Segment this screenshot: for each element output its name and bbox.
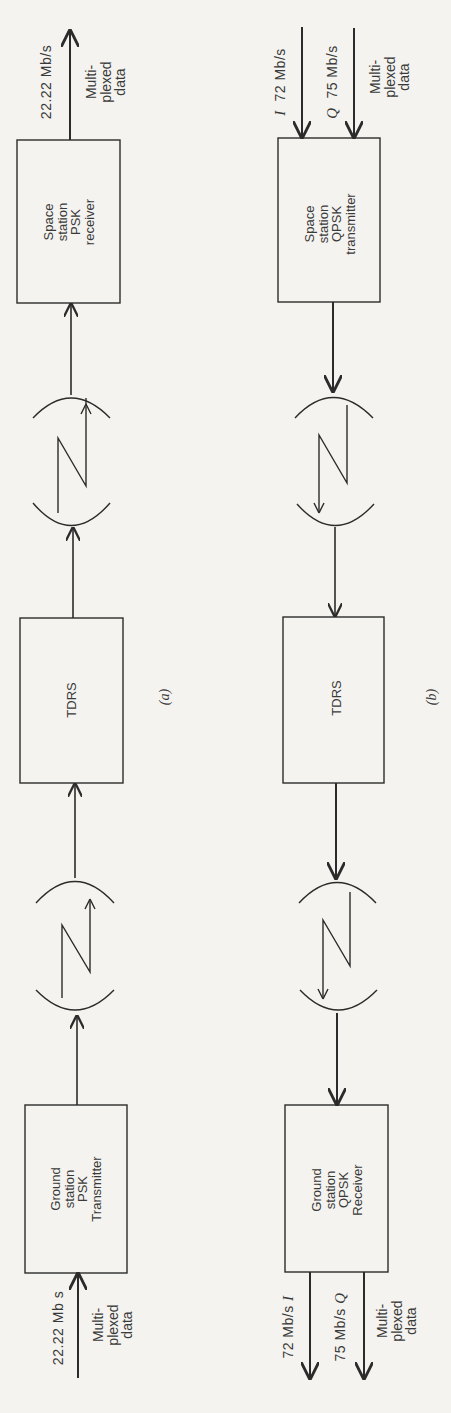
text-line: Multi- <box>375 1300 390 1341</box>
text-line: station <box>323 1164 337 1215</box>
text-line: plexed <box>390 1300 405 1341</box>
text-line: Space <box>303 193 317 254</box>
figure-canvas: 22.22 Mb/s Multi- plexed data Space stat… <box>0 0 451 1413</box>
b-input-q-label: Q 75 Mb/s <box>325 45 341 118</box>
a-space-rx-label: Space station PSK receiver <box>42 199 97 245</box>
a-caption: (a) <box>158 689 173 705</box>
text-line: Multi- <box>84 61 99 102</box>
b-tdrs-label: TDRS <box>330 680 344 715</box>
text-line: station <box>316 193 330 254</box>
a-input-rate: 22.22 Mb s <box>51 1291 66 1365</box>
channel-q-symbol: Q <box>324 107 340 118</box>
b-output-q-label: 75 Mb/s Q <box>333 1292 349 1361</box>
text-line: data <box>120 1304 135 1345</box>
text-line: PSK <box>69 199 83 245</box>
text-line: Ground <box>310 1164 324 1215</box>
text-line: data <box>397 56 412 97</box>
b-ground-rx-label: Ground station QPSK Receiver <box>310 1164 365 1215</box>
text-line: plexed <box>99 61 114 102</box>
a-output-mux-label: Multi- plexed data <box>84 61 128 102</box>
text-line: Space <box>42 199 56 245</box>
b-output-i-label: 72 Mb/s I <box>281 1295 297 1358</box>
text-line: plexed <box>383 56 398 97</box>
text-line: Receiver <box>351 1164 365 1215</box>
b-space-tx-label: Space station QPSK transmitter <box>303 193 358 254</box>
text-line: PSK <box>76 1156 90 1221</box>
channel-i-symbol: I <box>280 1295 296 1301</box>
b-input-mux-label: Multi- plexed data <box>368 56 412 97</box>
rate-text: 75 Mb/s <box>324 45 340 98</box>
text-line: Multi- <box>91 1304 106 1345</box>
channel-i-symbol: I <box>272 110 288 116</box>
text-line: Transmitter <box>90 1156 104 1221</box>
a-tdrs-label: TDRS <box>65 682 79 717</box>
text-line: QPSK <box>337 1164 351 1215</box>
text-line: transmitter <box>344 193 358 254</box>
channel-q-symbol: Q <box>332 1292 348 1303</box>
text-line: data <box>404 1300 419 1341</box>
a-antenna-upper-top-arc <box>33 398 110 418</box>
rate-text: 75 Mb/s <box>332 1308 348 1361</box>
text-line: plexed <box>106 1304 121 1345</box>
text-line: QPSK <box>330 193 344 254</box>
a-input-mux-label: Multi- plexed data <box>91 1304 135 1345</box>
text-line: Ground <box>49 1156 63 1221</box>
a-output-rate: 22.22 Mb/s <box>39 45 54 119</box>
a-bolt-upper <box>58 405 86 513</box>
b-input-i-label: I 72 Mb/s <box>273 48 289 116</box>
rate-text: 72 Mb/s <box>280 1305 296 1358</box>
text-line: Multi- <box>368 56 383 97</box>
text-line: station <box>55 199 69 245</box>
text-line: receiver <box>83 199 97 245</box>
b-output-mux-label: Multi- plexed data <box>375 1300 419 1341</box>
rate-text: 72 Mb/s <box>272 48 288 101</box>
a-antenna-upper-bottom-arc <box>33 503 110 526</box>
a-ground-tx-label: Ground station PSK Transmitter <box>49 1156 104 1221</box>
text-line: data <box>113 61 128 102</box>
b-caption: (b) <box>425 689 440 705</box>
text-line: station <box>62 1156 76 1221</box>
